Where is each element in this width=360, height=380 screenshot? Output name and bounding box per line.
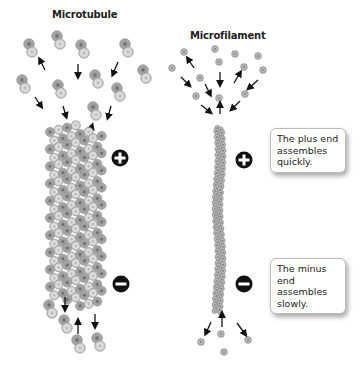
plus-end-callout: The plus end assembles quickly. bbox=[270, 128, 346, 173]
plus-sign-icon bbox=[112, 150, 129, 167]
minus-sign-icon bbox=[113, 276, 130, 293]
minus-sign-icon-microfilament bbox=[236, 276, 253, 293]
plus-sign-icon-microfilament bbox=[236, 152, 253, 169]
microfilament-free-actin-top bbox=[169, 46, 267, 102]
microfilament-polymer bbox=[212, 125, 226, 315]
microtubule-free-dimers-bottom bbox=[44, 300, 106, 354]
microtubule-polymer bbox=[45, 121, 106, 311]
microtubule-free-dimers-top bbox=[17, 31, 152, 121]
microfilament-free-actin-bottom bbox=[198, 331, 252, 356]
diagram-graphics bbox=[0, 0, 360, 380]
minus-end-callout: The minus end assembles slowly. bbox=[270, 258, 346, 314]
cytoskeleton-diagram: Microtubule Microfilament bbox=[0, 0, 360, 380]
microfilament-arrows-bottom bbox=[206, 314, 245, 334]
